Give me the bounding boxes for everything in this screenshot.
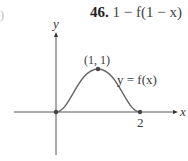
peak-point bbox=[96, 67, 100, 71]
x-intercept-point bbox=[138, 110, 142, 114]
peak-label: (1, 1) bbox=[84, 53, 110, 67]
x-tick-label-2: 2 bbox=[137, 115, 144, 130]
function-graph: y x (1, 1) y = f(x) 2 bbox=[0, 0, 188, 161]
y-axis-label: y bbox=[51, 16, 59, 31]
x-axis-arrow-icon bbox=[173, 110, 178, 114]
y-axis-arrow-icon bbox=[54, 32, 58, 37]
origin-point bbox=[54, 110, 58, 114]
curve-label: y = f(x) bbox=[117, 72, 157, 87]
x-axis-label: x bbox=[179, 104, 186, 119]
